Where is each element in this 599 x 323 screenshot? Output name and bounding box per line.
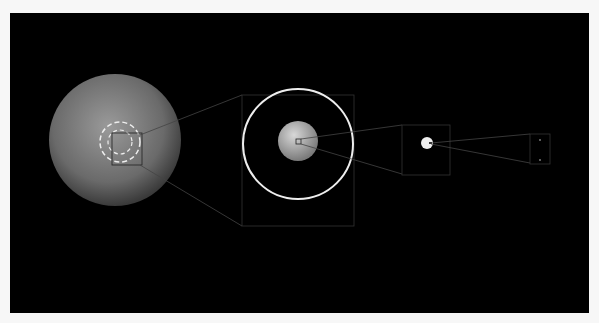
procyon-b-dot [539,159,541,161]
diagram-panel [10,13,589,313]
betelgeuse-star [10,13,181,206]
star-illustration [10,13,589,313]
earth-dot [539,139,541,141]
